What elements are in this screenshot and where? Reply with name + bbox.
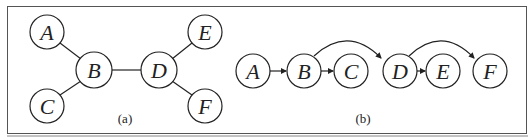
edge-d-f [172,81,192,95]
node-b-D: D [383,54,417,88]
node-a-A: A [30,15,64,49]
svg-text:A: A [244,59,260,84]
figure: A B C D E F (a) [0,0,528,140]
node-a-F: F [188,89,222,123]
node-b-E: E [426,54,460,88]
node-a-D: D [141,52,177,88]
svg-text:D: D [150,58,167,83]
panel-b: A B C D E F (b) [236,41,507,126]
svg-text:C: C [344,59,359,84]
caption-b: (b) [355,111,370,126]
edge-c-b [60,81,81,95]
svg-text:F: F [482,59,497,84]
svg-text:D: D [391,59,408,84]
node-a-B: B [76,52,112,88]
caption-a: (a) [118,111,132,126]
svg-text:E: E [197,20,212,45]
svg-text:B: B [297,59,310,84]
node-b-F: F [473,54,507,88]
node-a-E: E [188,15,222,49]
edge-d-e [172,43,192,59]
node-b-C: C [334,54,368,88]
svg-text:A: A [38,20,54,45]
svg-text:F: F [197,94,212,119]
svg-text:C: C [40,94,55,119]
svg-text:E: E [435,59,450,84]
edge-a-b [60,43,81,59]
node-b-A: A [236,54,270,88]
svg-text:B: B [87,58,100,83]
node-a-C: C [30,89,64,123]
panel-a: A B C D E F (a) [30,15,222,126]
node-b-B: B [287,54,321,88]
